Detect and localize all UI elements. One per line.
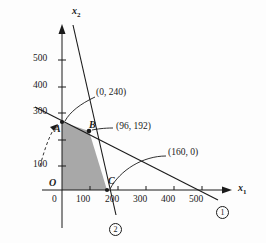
constraint-badge-1: 1 xyxy=(216,206,229,219)
x-axis-label: x1 xyxy=(238,183,247,196)
constraint-badge-2-text: 2 xyxy=(109,223,122,236)
vertex-label-c: C xyxy=(108,176,115,186)
x-tick-label-500: 500 xyxy=(189,195,203,205)
x-axis-arrow-icon xyxy=(222,187,232,194)
y-tick-label-100: 100 xyxy=(33,160,47,170)
vertex-dot-c xyxy=(105,188,109,192)
vertex-label-a: A xyxy=(54,124,61,134)
y-tick-label-400: 400 xyxy=(33,81,47,91)
x-tick-label-200: 200 xyxy=(105,195,119,205)
annotation-point-c: (160, 0) xyxy=(168,148,198,158)
constraint-badge-2: 2 xyxy=(109,223,122,236)
annotation-point-a: (0, 240) xyxy=(96,88,126,98)
origin-label: O xyxy=(49,178,56,188)
leader-line-point-c xyxy=(110,156,166,189)
graph-figure: x2 x1 O 500 400 300 100 0 100 200 300 40… xyxy=(0,0,266,243)
x-tick-label-400: 400 xyxy=(161,195,175,205)
y-tick-label-300: 300 xyxy=(33,107,47,117)
x-tick-label-100: 100 xyxy=(76,195,90,205)
annotation-point-b: (96, 192) xyxy=(116,122,151,132)
x-tick-label-0: 0 xyxy=(52,195,57,205)
vertex-label-b: B xyxy=(89,120,96,130)
y-tick-label-500: 500 xyxy=(33,54,47,64)
constraint-badge-1-text: 1 xyxy=(216,206,229,219)
x-tick-label-300: 300 xyxy=(133,195,147,205)
y-axis-label: x2 xyxy=(72,6,81,19)
y-axis-arrow-icon xyxy=(59,24,66,34)
